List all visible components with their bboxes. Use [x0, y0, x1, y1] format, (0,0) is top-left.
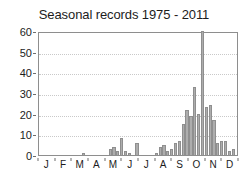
x-tick-mark — [138, 158, 139, 161]
x-tick-mark — [121, 158, 122, 161]
bar — [159, 147, 162, 155]
x-tick-mark — [238, 158, 239, 161]
x-tick-label-june: J — [127, 160, 132, 170]
y-tick-mark — [33, 135, 36, 136]
y-tick-label: 10 — [20, 130, 32, 141]
bar — [178, 141, 181, 155]
x-tick-mark — [54, 158, 55, 161]
x-tick-mark — [104, 158, 105, 161]
bar — [166, 151, 169, 155]
bar — [120, 138, 123, 155]
bar — [112, 147, 115, 155]
bar — [128, 153, 131, 155]
y-tick-mark — [33, 115, 36, 116]
x-tick-label-january: J — [44, 160, 49, 170]
chart-figure: Seasonal records 1975 - 2011 01020304050… — [0, 0, 248, 188]
x-tick-mark — [171, 158, 172, 161]
x-tick-mark — [88, 158, 89, 161]
bar — [220, 141, 223, 155]
x-tick-mark — [71, 158, 72, 161]
x-tick-mark — [188, 158, 189, 161]
bar — [212, 120, 215, 155]
bar — [116, 151, 119, 155]
bar — [170, 149, 173, 155]
bar — [182, 124, 185, 155]
x-tick-label-october: O — [192, 160, 200, 170]
y-tick-label: 20 — [20, 109, 32, 120]
x-tick-mark — [204, 158, 205, 161]
bar — [228, 151, 231, 155]
y-tick-mark — [33, 53, 36, 54]
x-tick-label-december: D — [226, 160, 233, 170]
x-tick-label-february: F — [60, 160, 66, 170]
bar — [124, 151, 127, 155]
x-tick-mark — [154, 158, 155, 161]
y-tick-mark — [33, 94, 36, 95]
bar — [216, 143, 219, 155]
x-tick-label-april: A — [93, 160, 100, 170]
y-tick-label: 50 — [20, 47, 32, 58]
bar — [205, 107, 208, 155]
y-tick-label: 0 — [26, 151, 32, 162]
y-tick-mark — [33, 156, 36, 157]
y-tick-label: 60 — [20, 27, 32, 38]
y-tick-label: 30 — [20, 89, 32, 100]
bar — [185, 110, 188, 155]
x-axis: JFMAMJJASOND — [38, 158, 238, 180]
bar — [209, 105, 212, 155]
x-tick-label-july: J — [144, 160, 149, 170]
bar — [162, 145, 165, 155]
bar — [224, 141, 227, 155]
x-tick-label-august: A — [160, 160, 167, 170]
x-tick-mark — [38, 158, 39, 161]
x-tick-mark — [221, 158, 222, 161]
y-tick-label: 40 — [20, 68, 32, 79]
x-tick-label-may: M — [109, 160, 117, 170]
bar — [193, 87, 196, 155]
bar — [189, 116, 192, 155]
y-tick-mark — [33, 73, 36, 74]
plot-area — [38, 32, 238, 156]
bar — [201, 31, 204, 155]
x-tick-label-march: M — [75, 160, 83, 170]
y-axis: 0102030405060 — [0, 32, 36, 156]
x-tick-label-november: N — [209, 160, 216, 170]
bar — [109, 149, 112, 155]
bar — [174, 143, 177, 155]
bar — [82, 153, 85, 155]
bar — [135, 143, 138, 155]
bar — [155, 153, 158, 155]
x-tick-label-september: S — [176, 160, 183, 170]
bar — [197, 114, 200, 155]
chart-title: Seasonal records 1975 - 2011 — [0, 7, 248, 22]
bar — [232, 149, 235, 155]
bar-series — [39, 33, 237, 155]
y-tick-mark — [33, 32, 36, 33]
